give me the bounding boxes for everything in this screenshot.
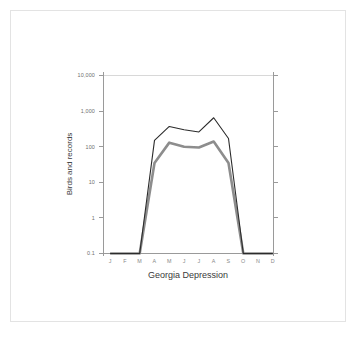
series-line-birds	[110, 142, 273, 254]
x-axis-title: Georgia Depression	[148, 270, 228, 280]
data-series	[110, 118, 273, 254]
x-tick-label-dec: D	[271, 258, 275, 264]
right-axis	[274, 72, 279, 256]
x-tick-label-mar: M	[137, 258, 142, 264]
x-tick-label-may: M	[167, 258, 172, 264]
y-axis-title: Birds and records	[65, 133, 74, 196]
y-tick-label-10: 10	[89, 179, 95, 185]
x-tick-label-oct: O	[241, 258, 245, 264]
x-tick-label-jul: J	[197, 258, 200, 264]
y-tick-label-10000: 10,000	[78, 72, 95, 78]
y-tick-label-100: 100	[86, 144, 95, 150]
x-tick-label-sep: S	[227, 258, 231, 264]
series-line-records	[110, 118, 273, 254]
chart-root: 10,000 1,000 100 10 1 0.1 J F M A M	[0, 0, 357, 338]
line-chart: 10,000 1,000 100 10 1 0.1 J F M A M	[0, 0, 357, 338]
y-axis: 10,000 1,000 100 10 1 0.1	[78, 72, 104, 256]
x-tick-labels: J F M A M J J A S O N D	[109, 258, 275, 264]
x-tick-label-nov: N	[256, 258, 260, 264]
x-tick-label-feb: F	[123, 258, 127, 264]
y-tick-label-0.1: 0.1	[87, 250, 95, 256]
x-tick-label-apr: A	[153, 258, 157, 264]
x-tick-label-jun: J	[183, 258, 186, 264]
x-tick-label-jan: J	[109, 258, 112, 264]
y-tick-label-1: 1	[92, 215, 95, 221]
x-tick-label-aug: A	[212, 258, 216, 264]
y-tick-label-1000: 1,000	[81, 108, 95, 114]
